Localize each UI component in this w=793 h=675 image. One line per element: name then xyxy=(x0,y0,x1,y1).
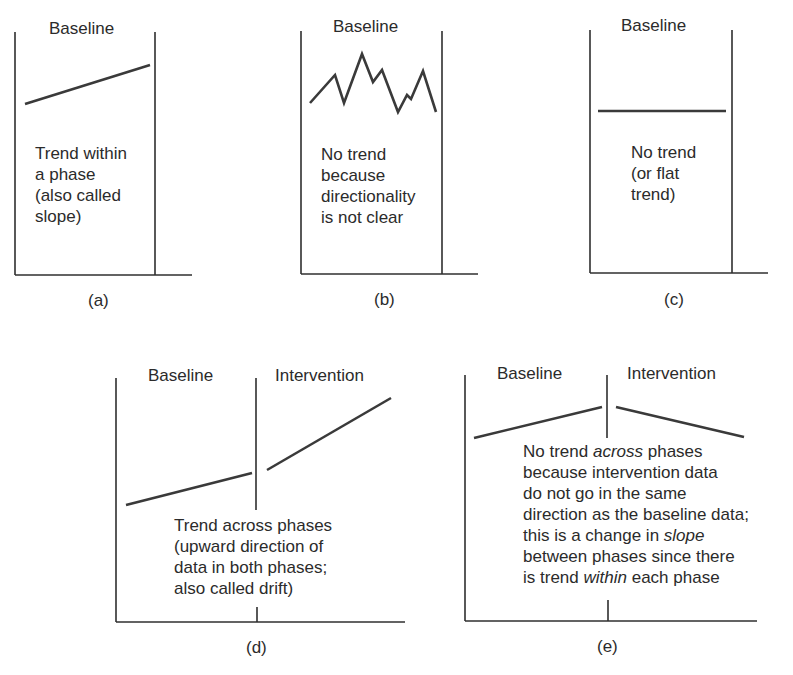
panel-c-phase-label: Baseline xyxy=(621,16,686,36)
panel-d-desc-line: (upward direction of xyxy=(174,536,332,557)
panel-d-desc-line: data in both phases; xyxy=(174,557,332,578)
text-run: is trend xyxy=(523,568,583,587)
text-run: this is a change in xyxy=(523,526,664,545)
emphasis-text: slope xyxy=(664,526,705,545)
panel-d-caption: (d) xyxy=(246,638,267,658)
panel-e-intervention-line xyxy=(616,407,744,437)
panel-e-phase-label-intervention: Intervention xyxy=(627,364,716,384)
text-run: No trend xyxy=(523,442,593,461)
panel-b-desc-line: directionality xyxy=(321,186,416,207)
panel-e-desc-line: between phases since there xyxy=(523,546,749,567)
text-run: each phase xyxy=(627,568,720,587)
panel-a-trend-line xyxy=(25,65,150,104)
panel-a-desc-line: a phase xyxy=(35,164,127,185)
panel-e-desc-line: do not go in the same xyxy=(523,483,749,504)
panel-b-desc-line: is not clear xyxy=(321,207,416,228)
panel-d-phase-label-intervention: Intervention xyxy=(275,366,364,386)
panel-d-intervention-line xyxy=(267,398,391,470)
panel-c-desc-line: trend) xyxy=(631,184,696,205)
panel-c-desc-line: No trend xyxy=(631,142,696,163)
panel-b-phase-label: Baseline xyxy=(333,17,398,37)
panel-c-description: No trend (or flat trend) xyxy=(631,142,696,205)
panel-b-zigzag-line xyxy=(310,54,436,112)
panel-e-desc-line: this is a change in slope xyxy=(523,525,749,546)
panel-e-caption: (e) xyxy=(597,637,618,657)
panel-e-baseline-line xyxy=(474,407,602,438)
emphasis-text: across xyxy=(593,442,643,461)
panel-e-desc-line: direction as the baseline data; xyxy=(523,504,749,525)
panel-b-caption: (b) xyxy=(374,290,395,310)
emphasis-text: within xyxy=(583,568,626,587)
panel-b-desc-line: No trend xyxy=(321,144,416,165)
panel-a-desc-line: slope) xyxy=(35,206,127,227)
panel-a-desc-line: Trend within xyxy=(35,143,127,164)
panel-e-desc-line: because intervention data xyxy=(523,462,749,483)
panel-d-description: Trend across phases (upward direction of… xyxy=(174,515,332,599)
panel-b-description: No trend because directionality is not c… xyxy=(321,144,416,228)
panel-e-phase-label-baseline: Baseline xyxy=(497,364,562,384)
panel-e-desc-line: is trend within each phase xyxy=(523,567,749,588)
panel-a-phase-label: Baseline xyxy=(49,19,114,39)
panel-a-desc-line: (also called xyxy=(35,185,127,206)
panel-d-desc-line: also called drift) xyxy=(174,578,332,599)
panel-e-description: No trend across phases because intervent… xyxy=(523,441,749,588)
panel-d-baseline-line xyxy=(126,473,252,505)
panel-c-caption: (c) xyxy=(664,290,684,310)
text-run: phases xyxy=(643,442,703,461)
panel-c-desc-line: (or flat xyxy=(631,163,696,184)
panel-a-description: Trend within a phase (also called slope) xyxy=(35,143,127,227)
panel-b-desc-line: because xyxy=(321,165,416,186)
panel-e-desc-line: No trend across phases xyxy=(523,441,749,462)
panel-a-caption: (a) xyxy=(88,291,109,311)
panel-d-desc-line: Trend across phases xyxy=(174,515,332,536)
panel-d-phase-label-baseline: Baseline xyxy=(148,366,213,386)
